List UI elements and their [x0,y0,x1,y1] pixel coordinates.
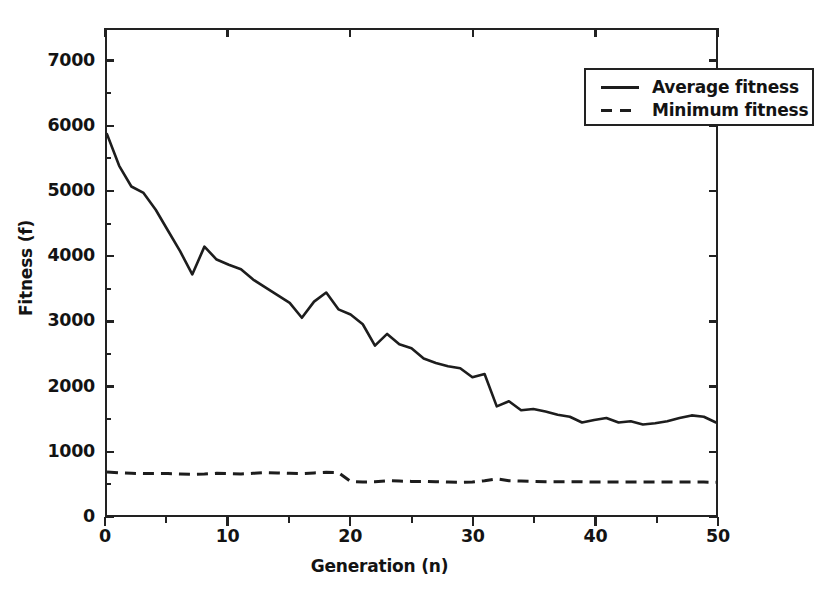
minimum-fitness-line [107,472,716,482]
legend-item-minimum: Minimum fitness [586,98,812,121]
x-tick-minor [533,517,535,523]
x-tick-label: 50 [688,528,748,546]
legend-dashed-line-icon [598,103,642,117]
y-tick [105,59,114,62]
y-tick-minor [105,288,111,290]
y-tick-label: 3000 [31,312,95,330]
y-tick-minor [105,92,111,94]
y-tick-right [709,190,718,193]
x-tick-minor [656,517,658,523]
y-tick-label: 4000 [31,247,95,265]
x-tick [104,517,107,526]
y-tick-right [709,255,718,258]
x-tick-top [594,28,597,37]
y-tick [105,255,114,258]
y-axis-title: Fitness (f) [16,198,36,338]
y-tick-minor [105,418,111,420]
x-tick [226,517,229,526]
average-fitness-line [107,134,716,424]
y-tick [105,516,114,519]
x-tick-top [717,28,720,37]
y-tick-right [709,59,718,62]
x-tick [349,517,352,526]
y-tick-label: 1000 [31,443,95,461]
y-tick-right [709,451,718,454]
x-tick-top [226,28,229,37]
y-tick-minor [105,223,111,225]
y-tick-right [709,385,718,388]
legend-label-minimum: Minimum fitness [652,100,808,120]
x-tick-top [349,28,352,37]
x-tick-minor [411,517,413,523]
x-tick [472,517,475,526]
y-tick [105,385,114,388]
chart-legend: Average fitness Minimum fitness [584,68,814,126]
y-tick-label: 7000 [31,52,95,70]
y-tick-minor [105,483,111,485]
y-tick [105,320,114,323]
y-tick-right [709,516,718,519]
y-tick [105,451,114,454]
plot-area: Average fitness Minimum fitness [105,28,718,517]
legend-solid-line-icon [598,80,642,94]
legend-item-average: Average fitness [586,75,812,98]
y-tick-right [709,125,718,128]
y-tick [105,190,114,193]
x-tick-label: 0 [75,528,135,546]
legend-label-average: Average fitness [652,77,799,97]
x-tick-label: 10 [198,528,258,546]
y-tick-label: 6000 [31,117,95,135]
y-tick-right [709,320,718,323]
x-tick-top [472,28,475,37]
y-tick-label: 2000 [31,378,95,396]
x-tick-label: 20 [320,528,380,546]
y-tick [105,125,114,128]
x-tick-label: 40 [565,528,625,546]
x-tick-minor [165,517,167,523]
x-axis-title: Generation (n) [0,556,759,576]
x-tick [594,517,597,526]
y-tick-label: 0 [31,508,95,526]
y-tick-minor [105,157,111,159]
x-tick-top [104,28,107,37]
x-tick-minor [288,517,290,523]
x-tick-label: 30 [443,528,503,546]
x-tick [717,517,720,526]
y-tick-minor [105,353,111,355]
y-tick-label: 5000 [31,182,95,200]
